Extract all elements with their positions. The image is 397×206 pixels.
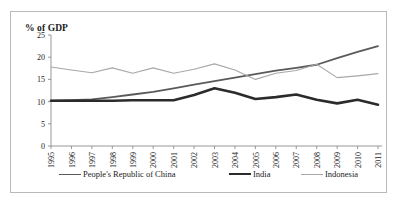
- x-axis-tick-label: 1996: [68, 152, 77, 168]
- x-axis-tick-label: 1999: [129, 152, 138, 168]
- x-axis-tick-label: 2003: [211, 152, 220, 168]
- x-axis-tick-label: 2000: [149, 152, 158, 168]
- series-line: [51, 64, 378, 80]
- x-axis-tick-label: 1995: [47, 152, 56, 168]
- x-axis-tick-label: 1997: [88, 152, 97, 168]
- legend-line-swatch: [301, 174, 323, 175]
- legend-item[interactable]: Indonesia: [301, 169, 358, 179]
- x-axis-tick-label: 2009: [333, 152, 342, 168]
- x-axis-tick-label: 2006: [272, 152, 281, 168]
- chart-figure: % of GDP 0510152025 19951996199719981999…: [10, 11, 387, 193]
- x-axis-tick-label: 2011: [374, 152, 383, 168]
- data-series-group: [51, 46, 378, 105]
- chart-legend: People's Republic of ChinaIndiaIndonesia: [11, 169, 388, 189]
- y-axis-tick-label: 20: [37, 53, 45, 62]
- y-axis-tick-label: 0: [41, 142, 45, 151]
- plot-area: 0510152025 19951996199719981999200020012…: [11, 12, 388, 194]
- y-axis-tick-label: 5: [41, 120, 45, 129]
- x-axis-tick-label: 2001: [170, 152, 179, 168]
- x-axis-tick-label: 2010: [354, 152, 363, 168]
- series-line: [51, 46, 378, 101]
- legend-line-swatch: [59, 174, 81, 175]
- line-chart-svg: 0510152025 19951996199719981999200020012…: [11, 12, 388, 194]
- y-axis-tick-label: 25: [37, 31, 45, 40]
- legend-item-label: India: [253, 169, 270, 179]
- series-line: [51, 88, 378, 104]
- x-axis-tick-label: 2004: [231, 152, 240, 168]
- legend-item-label: People's Republic of China: [83, 169, 175, 179]
- y-axis: 0510152025: [37, 31, 51, 151]
- y-axis-tick-label: 15: [37, 75, 45, 84]
- x-axis-tick-label: 2002: [190, 152, 199, 168]
- y-axis-tick-label: 10: [37, 98, 45, 107]
- legend-line-swatch: [229, 173, 251, 175]
- x-axis-tick-label: 2005: [252, 152, 261, 168]
- legend-item-label: Indonesia: [325, 169, 358, 179]
- legend-item[interactable]: People's Republic of China: [59, 169, 175, 179]
- x-axis-tick-label: 2008: [313, 152, 322, 168]
- legend-item[interactable]: India: [229, 169, 270, 179]
- x-axis-tick-label: 2007: [292, 152, 301, 168]
- x-axis: 1995199619971998199920002001200220032004…: [47, 146, 383, 168]
- x-axis-tick-label: 1998: [109, 152, 118, 168]
